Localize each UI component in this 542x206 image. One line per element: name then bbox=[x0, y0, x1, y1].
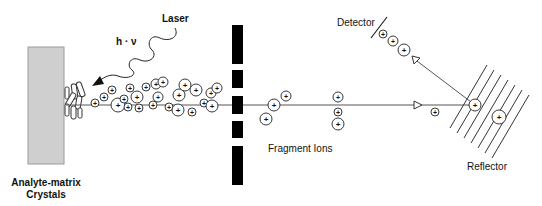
sample-label-line2: Crystals bbox=[26, 189, 66, 200]
laser-beam-wave bbox=[100, 28, 176, 80]
reflector-grid bbox=[450, 65, 529, 158]
crystals-icon bbox=[65, 81, 86, 119]
ion-charge-symbol: + bbox=[284, 93, 288, 100]
ion-charge-symbol: + bbox=[210, 102, 215, 111]
ion-charge-symbol: + bbox=[126, 104, 130, 111]
ion-charge-symbol: + bbox=[497, 113, 502, 122]
reflected-path bbox=[413, 58, 475, 105]
reflector-label: Reflector bbox=[467, 161, 508, 172]
ion-charge-symbol: + bbox=[161, 79, 165, 86]
ion-charge-symbol: + bbox=[154, 81, 158, 88]
ion-charge-symbol: + bbox=[433, 109, 437, 116]
ion-charge-symbol: + bbox=[336, 120, 341, 129]
ion-charge-symbol: + bbox=[391, 38, 395, 45]
ion-charge-symbol: + bbox=[336, 109, 340, 116]
ion-charge-symbol: + bbox=[336, 94, 340, 101]
ion-charge-symbol: + bbox=[122, 96, 126, 103]
ion-charge-symbol: + bbox=[381, 31, 385, 38]
ions-in-flight: ++++++ bbox=[379, 30, 506, 124]
ion-charge-symbol: + bbox=[135, 93, 140, 102]
ion-charge-symbol: + bbox=[144, 84, 148, 91]
extraction-grid bbox=[232, 25, 243, 185]
ion-charge-symbol: + bbox=[194, 86, 199, 95]
ion-charge-symbol: + bbox=[151, 102, 155, 109]
ion-charge-symbol: + bbox=[177, 91, 182, 100]
direction-arrow-icon bbox=[414, 101, 422, 109]
ion-charge-symbol: + bbox=[167, 104, 171, 111]
maldi-tof-diagram: ++++++++++++++++++++++++ ++++++ ++++++ L… bbox=[0, 0, 542, 206]
ion-charge-symbol: + bbox=[128, 85, 132, 92]
ion-charge-symbol: + bbox=[190, 109, 194, 116]
ion-charge-symbol: + bbox=[402, 46, 407, 55]
ion-charge-symbol: + bbox=[473, 101, 478, 110]
ion-charge-symbol: + bbox=[116, 101, 121, 110]
ion-charge-symbol: + bbox=[102, 94, 106, 101]
ion-charge-symbol: + bbox=[202, 100, 206, 107]
sample-label-line1: Analyte-matrix bbox=[11, 177, 81, 188]
ion-charge-symbol: + bbox=[176, 106, 181, 115]
ion-charge-symbol: + bbox=[93, 100, 97, 107]
laser-label: Laser bbox=[162, 13, 189, 24]
photon-energy-label: h · ν bbox=[116, 36, 137, 47]
fragment-ions-label: Fragment Ions bbox=[268, 143, 332, 154]
sample-plate bbox=[28, 47, 64, 164]
ion-cloud: ++++++++++++++++++++++++ bbox=[91, 77, 222, 116]
detector-label: Detector bbox=[337, 17, 375, 28]
ion-charge-symbol: + bbox=[156, 94, 160, 101]
fragment-ions: ++++++ bbox=[260, 91, 344, 130]
laser-arrowhead-icon bbox=[92, 76, 104, 86]
ion-charge-symbol: + bbox=[137, 105, 141, 112]
ion-charge-symbol: + bbox=[110, 87, 114, 94]
ion-charge-symbol: + bbox=[264, 115, 269, 124]
ion-charge-symbol: + bbox=[215, 85, 219, 92]
ion-charge-symbol: + bbox=[272, 101, 277, 110]
ion-charge-symbol: + bbox=[183, 81, 188, 90]
